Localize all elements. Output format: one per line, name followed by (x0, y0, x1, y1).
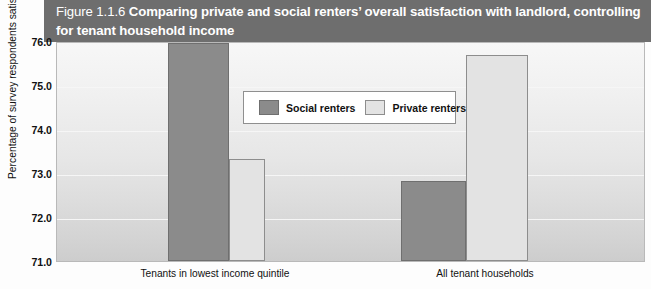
legend-entry-private-renters[interactable]: Private renters (365, 100, 466, 115)
y-tick-label-72: 72.0 (18, 212, 52, 224)
legend-label-private-renters: Private renters (392, 102, 466, 114)
page-title: Comparing private and social renters’ ov… (56, 4, 641, 38)
y-tick-label-75: 75.0 (18, 80, 52, 92)
figure-container: Figure 1.1.6 Comparing private and socia… (0, 0, 651, 289)
bar-private-renters-all-households[interactable] (466, 55, 528, 261)
x-category-label-lowest-quintile: Tenants in lowest income quintile (90, 268, 340, 279)
gridline-74 (57, 131, 644, 132)
x-category-label-all-households: All tenant households (385, 268, 585, 279)
chart-legend: Social renters Private renters (243, 91, 456, 124)
gridline-73 (57, 175, 644, 176)
gridline-75 (57, 87, 644, 88)
bar-social-renters-all-households[interactable] (401, 181, 466, 261)
y-tick-label-71: 71.0 (18, 256, 52, 268)
gridline-72 (57, 219, 644, 220)
private-renters-swatch-icon (365, 100, 385, 115)
y-tick-label-74: 74.0 (18, 124, 52, 136)
social-renters-swatch-icon (259, 100, 279, 115)
plot-area (56, 42, 645, 262)
legend-entry-social-renters[interactable]: Social renters (259, 100, 355, 115)
bar-private-renters-lowest-quintile[interactable] (229, 159, 265, 261)
figure-number: Figure 1.1.6 (56, 4, 125, 19)
y-tick-label-76: 76.0 (18, 36, 52, 48)
legend-label-social-renters: Social renters (286, 102, 355, 114)
figure-title-banner: Figure 1.1.6 Comparing private and socia… (44, 0, 651, 42)
bar-social-renters-lowest-quintile[interactable] (168, 43, 229, 261)
y-tick-label-73: 73.0 (18, 168, 52, 180)
